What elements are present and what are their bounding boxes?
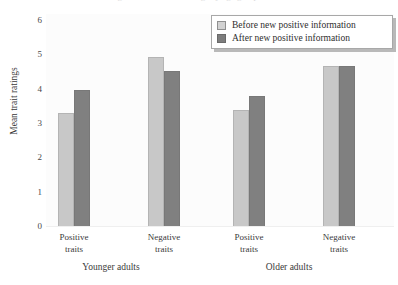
y-tick-2: 2	[24, 153, 42, 162]
legend-item-after[interactable]: After new positive information	[217, 32, 388, 45]
y-axis-label-wrap: Mean trait ratings	[2, 0, 20, 240]
category-label-older-positive: Positive traits	[214, 232, 284, 255]
bar-group-younger-positive	[58, 14, 91, 227]
legend-swatch-after-icon	[217, 34, 226, 43]
bar-older-positive-after[interactable]	[249, 96, 265, 227]
bar-older-negative-after[interactable]	[339, 66, 355, 227]
cut-off-caption-text: Figure 1. Mean trait ratings by age grou…	[110, 0, 258, 1]
bar-younger-negative-after[interactable]	[164, 71, 180, 227]
category-label-younger-positive: Positive traits	[39, 232, 109, 255]
panel-label-older-adults: Older adults	[219, 262, 359, 273]
category-label-younger-negative: Negative traits	[129, 232, 199, 255]
bar-group-younger-negative	[148, 14, 181, 227]
y-tick-1: 1	[24, 188, 42, 197]
cut-off-caption: Figure 1. Mean trait ratings by age grou…	[0, 0, 398, 7]
category-label-line2: traits	[39, 244, 109, 256]
category-label-line1: Positive	[214, 232, 284, 244]
y-tick-6: 6	[24, 16, 42, 25]
y-tick-3: 3	[24, 119, 42, 128]
bar-younger-negative-before[interactable]	[148, 57, 164, 227]
y-tick-0: 0	[24, 222, 42, 231]
legend-label-after: After new positive information	[232, 33, 350, 44]
legend-item-before[interactable]: Before new positive information	[217, 19, 388, 32]
panel-label-younger-adults: Younger adults	[41, 262, 181, 273]
category-label-line1: Negative	[304, 232, 374, 244]
category-label-line2: traits	[214, 244, 284, 256]
y-tick-4: 4	[24, 85, 42, 94]
category-label-line1: Negative	[129, 232, 199, 244]
legend-swatch-before-icon	[217, 21, 226, 30]
bar-younger-positive-after[interactable]	[74, 90, 90, 227]
category-label-line1: Positive	[39, 232, 109, 244]
y-tick-5: 5	[24, 50, 42, 59]
category-label-line2: traits	[129, 244, 199, 256]
category-label-line2: traits	[304, 244, 374, 256]
legend: Before new positive information After ne…	[211, 15, 393, 49]
category-label-older-negative: Negative traits	[304, 232, 374, 255]
x-axis-baseline	[46, 226, 394, 227]
figure-container: Figure 1. Mean trait ratings by age grou…	[0, 0, 398, 285]
bar-older-positive-before[interactable]	[233, 110, 249, 227]
legend-label-before: Before new positive information	[232, 20, 356, 31]
y-axis-label: Mean trait ratings	[9, 51, 19, 151]
bar-younger-positive-before[interactable]	[58, 113, 74, 227]
bar-older-negative-before[interactable]	[323, 66, 339, 227]
